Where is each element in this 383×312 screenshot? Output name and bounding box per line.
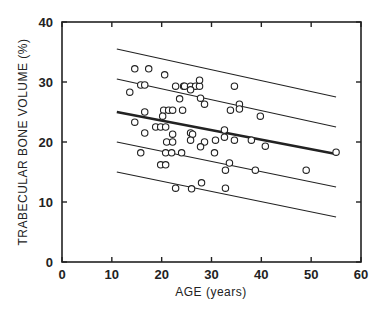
data-point <box>212 137 218 143</box>
data-point <box>197 144 203 150</box>
lower-outer-band <box>117 172 336 217</box>
data-point <box>196 77 202 83</box>
x-tick-label: 10 <box>105 267 119 282</box>
data-point <box>231 83 237 89</box>
data-point <box>176 96 182 102</box>
data-point <box>132 119 138 125</box>
data-point <box>142 109 148 115</box>
data-point <box>236 106 242 112</box>
x-tick-label: 60 <box>354 267 368 282</box>
data-point <box>187 87 193 93</box>
data-point <box>257 113 263 119</box>
data-point <box>169 139 175 145</box>
data-point <box>127 89 133 95</box>
data-point <box>221 134 227 140</box>
data-point <box>161 72 167 78</box>
data-point <box>252 167 258 173</box>
data-point <box>162 162 168 168</box>
data-point <box>146 66 152 72</box>
data-point <box>159 113 165 119</box>
y-axis-title: TRABECULAR BONE VOLUME (%) <box>16 38 30 245</box>
upper-outer-band <box>117 49 336 97</box>
data-point <box>188 186 194 192</box>
data-point <box>179 107 185 113</box>
data-point <box>178 150 184 156</box>
data-point <box>248 137 254 143</box>
plot-border <box>62 22 361 262</box>
data-point <box>132 66 138 72</box>
y-tick-label: 20 <box>39 135 53 150</box>
data-point <box>168 150 174 156</box>
data-point <box>138 150 144 156</box>
data-point <box>142 130 148 136</box>
data-point <box>172 185 178 191</box>
y-tick-label: 10 <box>39 195 53 210</box>
data-point <box>222 185 228 191</box>
data-point <box>221 127 227 133</box>
plot-frame <box>62 22 361 262</box>
data-point <box>142 82 148 88</box>
x-tick-label: 50 <box>304 267 318 282</box>
data-point <box>198 180 204 186</box>
data-point <box>189 131 195 137</box>
data-point <box>196 83 202 89</box>
x-tick-label: 40 <box>254 267 268 282</box>
data-point <box>222 167 228 173</box>
data-point <box>262 143 268 149</box>
y-tick-label: 30 <box>39 75 53 90</box>
data-point <box>211 150 217 156</box>
data-point <box>197 95 203 101</box>
data-point <box>187 137 193 143</box>
x-tick-label: 20 <box>154 267 168 282</box>
x-axis-title: AGE (years) <box>175 285 247 299</box>
y-axis: 010203040 <box>39 15 361 270</box>
data-point <box>169 131 175 137</box>
data-points <box>127 66 340 192</box>
upper-inner-band <box>117 79 336 127</box>
data-point <box>333 149 339 155</box>
data-point <box>172 83 178 89</box>
data-point <box>169 107 175 113</box>
x-tick-label: 30 <box>204 267 218 282</box>
data-point <box>303 167 309 173</box>
x-tick-label: 0 <box>58 267 65 282</box>
data-point <box>201 101 207 107</box>
data-point <box>231 137 237 143</box>
scatter-chart: 0102030405060 010203040 AGE (years) TRAB… <box>0 0 383 312</box>
data-point <box>227 107 233 113</box>
data-point <box>162 124 168 130</box>
y-tick-label: 0 <box>46 255 53 270</box>
y-tick-label: 40 <box>39 15 53 30</box>
data-point <box>226 160 232 166</box>
